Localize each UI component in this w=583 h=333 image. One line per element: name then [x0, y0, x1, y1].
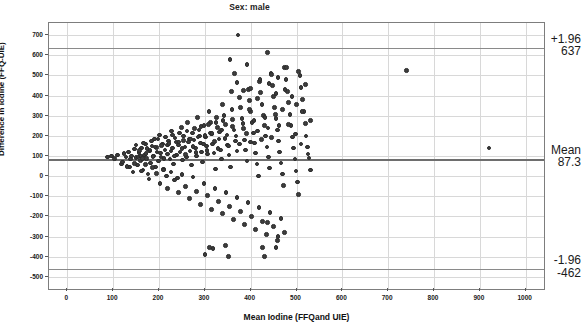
y-tick-mark: [45, 256, 48, 257]
scatter-point: [187, 196, 192, 201]
scatter-point: [248, 140, 253, 145]
scatter-point: [220, 211, 225, 216]
scatter-point: [303, 121, 308, 126]
y-tick-mark: [45, 276, 48, 277]
scatter-point: [169, 170, 174, 175]
y-tick-mark: [45, 135, 48, 136]
scatter-point: [209, 207, 214, 212]
scatter-point: [279, 161, 284, 166]
scatter-point: [274, 245, 279, 250]
scatter-point: [266, 126, 271, 131]
scatter-point: [145, 146, 150, 151]
scatter-point: [265, 50, 270, 55]
scatter-point: [268, 210, 273, 215]
x-tick-mark: [66, 288, 67, 291]
y-tick-label: -300: [30, 232, 43, 239]
scatter-point: [211, 246, 216, 251]
scatter-point: [151, 154, 156, 159]
scatter-point: [277, 150, 282, 155]
y-tick-label: 200: [32, 131, 43, 138]
scatter-point: [222, 113, 227, 118]
y-tick-mark: [45, 236, 48, 237]
scatter-point: [217, 137, 222, 142]
scatter-point: [180, 146, 185, 151]
scatter-point: [295, 180, 300, 185]
scatter-point: [224, 190, 229, 195]
x-tick-label: 100: [107, 294, 118, 301]
scatter-point: [260, 219, 265, 224]
scatter-point: [150, 165, 155, 170]
scatter-point: [237, 95, 242, 100]
scatter-point: [230, 107, 235, 112]
scatter-point: [256, 174, 261, 179]
x-tick-label: 400: [244, 294, 255, 301]
scatter-point: [259, 137, 264, 142]
scatter-point: [238, 105, 243, 110]
scatter-point: [216, 146, 221, 151]
y-tick-label: -100: [30, 192, 43, 199]
scatter-point: [144, 156, 149, 161]
scatter-point: [300, 97, 305, 102]
y-tick-label: 0: [39, 172, 43, 179]
x-tick-label: 700: [382, 294, 393, 301]
scatter-point: [189, 163, 194, 168]
scatter-point: [271, 224, 276, 229]
scatter-point: [273, 112, 278, 117]
scatter-point: [276, 75, 281, 80]
x-tick-mark: [479, 288, 480, 291]
scatter-point: [149, 139, 154, 144]
scatter-point: [207, 109, 212, 114]
scatter-point: [188, 137, 193, 142]
scatter-point: [279, 216, 284, 221]
scatter-point: [296, 192, 301, 197]
x-tick-mark: [296, 288, 297, 291]
gridline-vertical: [205, 23, 206, 289]
scatter-point: [137, 148, 142, 153]
scatter-point: [274, 116, 279, 121]
scatter-point: [252, 141, 257, 146]
gridline-vertical: [526, 23, 527, 289]
scatter-point: [237, 142, 242, 147]
x-tick-label: 0: [65, 294, 69, 301]
scatter-point: [257, 205, 262, 210]
scatter-point: [195, 115, 200, 120]
scatter-point: [158, 151, 163, 156]
scatter-point: [235, 195, 240, 200]
scatter-point: [190, 131, 195, 136]
scatter-point: [143, 162, 148, 167]
scatter-point: [231, 217, 236, 222]
scatter-point: [213, 167, 218, 172]
scatter-point: [262, 254, 267, 259]
scatter-point: [236, 33, 241, 38]
scatter-point: [230, 124, 235, 129]
reference-line-upper-loa: [49, 48, 544, 49]
scatter-point: [303, 82, 308, 87]
scatter-point: [283, 87, 288, 92]
scatter-point: [234, 134, 239, 139]
scatter-point: [214, 115, 219, 120]
scatter-point: [299, 142, 304, 147]
scatter-point: [214, 120, 219, 125]
scatter-point: [245, 159, 250, 164]
scatter-point: [249, 214, 254, 219]
x-tick-label: 200: [153, 294, 164, 301]
scatter-point: [194, 189, 199, 194]
scatter-point: [253, 151, 258, 156]
scatter-point: [202, 181, 207, 186]
scatter-point: [255, 129, 260, 134]
scatter-point: [286, 122, 291, 127]
scatter-point: [235, 149, 240, 154]
gridline-vertical: [297, 23, 298, 289]
scatter-point: [241, 121, 246, 126]
scatter-point: [199, 124, 204, 129]
scatter-point: [147, 177, 152, 182]
scatter-point: [223, 122, 228, 127]
scatter-point: [269, 72, 274, 77]
scatter-point: [255, 162, 260, 167]
x-tick-mark: [158, 288, 159, 291]
scatter-point: [304, 134, 309, 139]
x-tick-label: 800: [428, 294, 439, 301]
y-tick-mark: [45, 215, 48, 216]
scatter-point: [171, 162, 176, 167]
scatter-point: [290, 94, 295, 99]
